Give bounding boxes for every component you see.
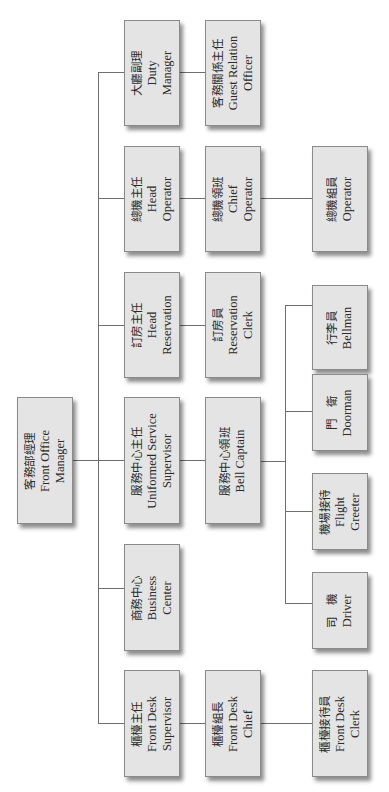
connector-front-desk-chief <box>180 723 205 724</box>
connector-operator <box>261 198 312 199</box>
node-label-en: Head <box>145 295 160 355</box>
connector-chief-operator <box>180 198 205 199</box>
node-label-en: Bellman <box>340 306 355 348</box>
node-bell-captain: 服務中心領班 Bell Captain <box>205 397 261 524</box>
connector-head-reservation <box>98 325 124 326</box>
node-label-zh: 行李員 <box>325 306 340 348</box>
node-label-zh: 門 衛 <box>325 389 340 436</box>
node-label-en: Doorman <box>340 389 355 436</box>
node-front-desk-chief: 櫃檯組長 Front Desk Chief <box>205 670 261 777</box>
node-label-en: Front Desk <box>226 696 241 752</box>
node-label-zh: 司 機 <box>325 593 340 628</box>
node-label-en: Duty <box>145 50 160 96</box>
connector-bellman <box>285 305 312 306</box>
node-label-zh: 機場接待 <box>318 489 333 535</box>
node-label-en: Head <box>145 176 160 222</box>
node-business-center: 商務中心 Business Center <box>124 544 180 651</box>
node-label-en: Chief <box>226 176 241 222</box>
node-uniformed-service-supervisor: 服務中心主任 Uniformed Service Supervisor <box>124 397 180 524</box>
node-label-zh: 大廳副理 <box>130 50 145 96</box>
node-flight-greeter: 機場接待 Flight Greeter <box>312 473 368 550</box>
node-label-zh: 櫃檯主任 <box>130 696 145 752</box>
connector-flight-greeter <box>285 511 312 512</box>
node-label-en: Bell Captain <box>233 426 248 495</box>
node-label-en: Front Office <box>38 430 53 492</box>
node-label-zh: 櫃檯接待員 <box>318 695 333 753</box>
node-label-en: Greeter <box>348 489 363 535</box>
node-label-zh: 總機組員 <box>325 176 340 222</box>
node-front-office-manager: 客務部經理 Front Office Manager <box>17 397 73 524</box>
node-label-zh: 櫃檯組長 <box>211 696 226 752</box>
connector-business-center <box>98 588 124 589</box>
node-head-operator: 總機主任 Head Operator <box>124 146 180 252</box>
node-label-en: Driver <box>340 593 355 628</box>
node-label-en: Center <box>160 575 175 621</box>
node-label-zh: 服務中心領班 <box>218 426 233 495</box>
node-label-en: Reservation <box>226 295 241 355</box>
connector-guest-relation <box>180 72 205 73</box>
node-label-zh: 總機主任 <box>130 176 145 222</box>
connector-reservation-clerk <box>180 325 205 326</box>
manager-connector <box>73 460 98 461</box>
node-label-en: Front Desk <box>145 696 160 752</box>
main-trunk <box>98 72 99 723</box>
node-front-desk-clerk: 櫃檯接待員 Front Desk Clerk <box>312 670 368 777</box>
node-guest-relation-officer: 客務關係主任 Guest Relation Officer <box>205 20 261 126</box>
node-label-zh: 總機領班 <box>211 176 226 222</box>
node-operator: 總機組員 Operator <box>312 146 368 252</box>
connector-front-desk-clerk <box>261 723 312 724</box>
connector-head-operator <box>98 198 124 199</box>
node-label-en: Chief <box>241 696 256 752</box>
node-label-en: Officer <box>241 36 256 111</box>
node-label-en: Front Desk <box>333 695 348 753</box>
connector-bell-captain <box>180 460 205 461</box>
node-label-zh: 訂房主任 <box>130 295 145 355</box>
node-label-en: Operator <box>241 176 256 222</box>
node-label-zh: 商務中心 <box>130 575 145 621</box>
node-label-en: Supervisor <box>160 696 175 752</box>
connector-duty-manager <box>98 72 124 73</box>
node-head-reservation: 訂房主任 Head Reservation <box>124 272 180 378</box>
connector-driver <box>285 603 312 604</box>
node-label-en: Supervisor <box>160 413 175 508</box>
node-reservation-clerk: 訂房員 Reservation Clerk <box>205 272 261 378</box>
node-label-zh: 訂房員 <box>211 295 226 355</box>
node-label-en: Clerk <box>241 295 256 355</box>
node-label-en: Guest Relation <box>226 36 241 111</box>
node-duty-manager: 大廳副理 Duty Manager <box>124 20 180 126</box>
connector-front-desk-supervisor <box>98 723 124 724</box>
node-label-en: Reservation <box>160 295 175 355</box>
bell-captain-subtrunk <box>285 305 286 603</box>
node-label-en: Business <box>145 575 160 621</box>
node-driver: 司 機 Driver <box>312 572 368 649</box>
node-label-en: Uniformed Service <box>145 413 160 508</box>
node-label-zh: 客務部經理 <box>23 430 38 492</box>
node-label-en: Manager <box>53 430 68 492</box>
node-front-desk-supervisor: 櫃檯主任 Front Desk Supervisor <box>124 670 180 777</box>
node-label-en: Manager <box>160 50 175 96</box>
node-label-en: Flight <box>333 489 348 535</box>
connector-uniformed-service <box>98 460 124 461</box>
node-bellman: 行李員 Bellman <box>312 285 368 370</box>
node-label-en: Operator <box>160 176 175 222</box>
node-label-en: Operator <box>340 176 355 222</box>
node-label-zh: 服務中心主任 <box>130 413 145 508</box>
node-label-en: Clerk <box>348 695 363 753</box>
node-label-zh: 客務關係主任 <box>211 36 226 111</box>
node-chief-operator: 總機領班 Chief Operator <box>205 146 261 252</box>
connector-doorman <box>285 411 312 412</box>
connector-bell-captain-out <box>261 461 285 462</box>
node-doorman: 門 衛 Doorman <box>312 374 368 451</box>
